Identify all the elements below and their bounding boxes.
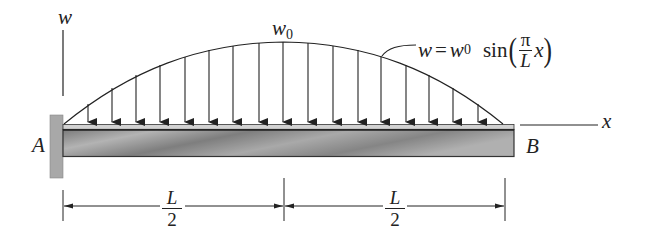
dim-1-den: 2 (162, 209, 182, 229)
dim-1-num: L (162, 188, 182, 209)
eq-lhs: w (418, 38, 432, 63)
x-axis-label: x (602, 111, 611, 132)
support-A-label: A (32, 135, 45, 156)
w-axis-label: w (58, 7, 72, 28)
eq-fraction: π L (519, 30, 533, 71)
beam-diagram (0, 0, 654, 250)
dimension-lines (63, 178, 505, 221)
eq-frac-num: π (519, 30, 533, 51)
eq-func: sin (483, 38, 508, 63)
equation-leader-line (382, 45, 416, 56)
dim-2-num: L (385, 188, 405, 209)
eq-var: x (534, 38, 543, 63)
dim-2-den: 2 (385, 209, 405, 229)
fixed-support-wall (50, 115, 63, 178)
load-equation: w = w0 sin ( π L x ) (418, 30, 551, 70)
end-B-label: B (526, 136, 539, 157)
eq-equals: = (435, 38, 447, 63)
eq-frac-den: L (520, 51, 531, 71)
beam (63, 125, 514, 157)
peak-load-symbol: w (272, 16, 286, 40)
peak-load-label: w0 (272, 18, 293, 39)
dimension-label-2: L 2 (385, 188, 405, 229)
eq-open-paren: ( (509, 33, 517, 67)
peak-load-subscript: 0 (286, 27, 293, 42)
eq-close-paren: ) (543, 33, 551, 67)
eq-coef: w (450, 38, 464, 63)
dimension-label-1: L 2 (162, 188, 182, 229)
eq-coef-sub: 0 (464, 42, 471, 58)
